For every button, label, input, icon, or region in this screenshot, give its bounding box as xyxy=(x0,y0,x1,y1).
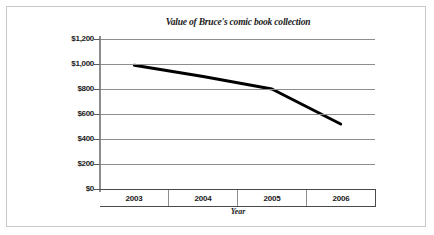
gridline xyxy=(100,114,375,115)
y-axis-tick xyxy=(94,114,100,115)
x-axis-category-label: 2006 xyxy=(307,190,375,206)
gridline xyxy=(100,164,375,165)
y-axis-tick-label: $1,000 xyxy=(40,59,94,68)
y-axis-tick xyxy=(94,39,100,40)
x-axis-category-label: 2003 xyxy=(100,190,169,206)
gridline xyxy=(100,139,375,140)
gridline xyxy=(100,64,375,65)
gridline xyxy=(100,39,375,40)
y-axis-tick xyxy=(94,89,100,90)
y-axis-tick-label: $200 xyxy=(40,159,94,168)
y-axis-tick-label: $0 xyxy=(40,184,94,193)
chart-figure: Value of Bruce's comic book collection $… xyxy=(0,0,434,235)
y-axis-tick-label: $400 xyxy=(40,134,94,143)
y-axis-tick xyxy=(94,139,100,140)
y-axis-tick-label: $800 xyxy=(40,84,94,93)
x-axis-title: Year xyxy=(100,207,376,216)
y-axis-tick-label: $600 xyxy=(40,109,94,118)
y-axis-tick xyxy=(94,189,100,190)
y-axis-tick-label: $1,200 xyxy=(40,34,94,43)
y-axis-tick xyxy=(94,64,100,65)
gridline xyxy=(100,89,375,90)
x-axis-category-band: 2003200420052006 xyxy=(100,189,376,207)
chart-title: Value of Bruce's comic book collection xyxy=(100,17,376,27)
y-axis-tick xyxy=(94,164,100,165)
x-axis-category-label: 2004 xyxy=(169,190,238,206)
x-axis-category-label: 2005 xyxy=(238,190,307,206)
y-axis-tick-labels: $1,200$1,000$800$600$400$200$0 xyxy=(34,0,94,235)
plot-area xyxy=(100,39,375,189)
